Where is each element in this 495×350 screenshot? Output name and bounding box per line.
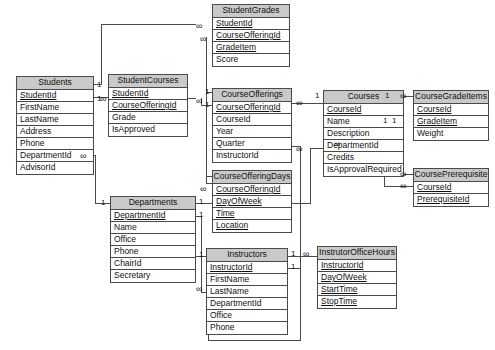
field-row[interactable]: FirstName bbox=[17, 102, 93, 114]
field-name-key: StartTime bbox=[321, 284, 358, 294]
cardinality-marker-m18: ∞ bbox=[400, 170, 406, 178]
field-name: Weight bbox=[417, 128, 443, 138]
entity-student_courses[interactable]: StudentCoursesStudentIdCourseOfferingIdG… bbox=[108, 74, 188, 137]
field-row[interactable]: DepartmentId bbox=[111, 210, 195, 222]
entity-course_grade_items[interactable]: CourseGradeItemsCourseIdGradeItemWeight bbox=[413, 90, 489, 141]
entity-departments[interactable]: DepartmentsDepartmentIdNameOfficePhoneCh… bbox=[110, 196, 196, 283]
field-name-key: DayOfWeek bbox=[216, 196, 262, 206]
field-name-key: InstructorId bbox=[321, 260, 364, 270]
field-row[interactable]: Phone bbox=[111, 246, 195, 258]
field-row[interactable]: CourseOfferingId bbox=[109, 100, 187, 112]
field-row[interactable]: Phone bbox=[207, 322, 287, 334]
field-name-key: StudentId bbox=[20, 90, 56, 100]
field-name-key: GradeItem bbox=[417, 116, 457, 126]
field-row[interactable]: ChairId bbox=[111, 258, 195, 270]
field-row[interactable]: Weight bbox=[414, 128, 488, 140]
cardinality-marker-m9: ∞ bbox=[80, 152, 86, 160]
field-row[interactable]: CourseId bbox=[414, 182, 488, 194]
field-row[interactable]: StudentId bbox=[109, 88, 187, 100]
field-row[interactable]: Secretary bbox=[111, 270, 195, 282]
cardinality-marker-m24: ∞ bbox=[196, 285, 202, 293]
field-row[interactable]: IsApprovalRequired bbox=[324, 164, 403, 176]
cardinality-marker-m7: 1 bbox=[205, 88, 209, 96]
field-name: Office bbox=[114, 234, 136, 244]
field-name: Phone bbox=[114, 246, 139, 256]
field-row[interactable]: PrerequisiteId bbox=[414, 194, 488, 206]
field-name: ChairId bbox=[114, 258, 141, 268]
field-row[interactable]: InstructorId bbox=[318, 260, 396, 272]
field-row[interactable]: StartTime bbox=[318, 284, 396, 296]
field-row[interactable]: FirstName bbox=[207, 274, 287, 286]
field-row[interactable]: CourseOfferingId bbox=[213, 30, 289, 42]
field-row[interactable]: DayOfWeek bbox=[318, 272, 396, 284]
field-row[interactable]: Score bbox=[213, 54, 289, 66]
field-row[interactable]: CourseOfferingId bbox=[213, 102, 291, 114]
field-row[interactable]: DepartmentId bbox=[207, 298, 287, 310]
field-row[interactable]: CourseId bbox=[324, 104, 403, 116]
entity-title-student_courses: StudentCourses bbox=[109, 75, 187, 88]
field-row[interactable]: GradeItem bbox=[213, 42, 289, 54]
field-name-key: CourseId bbox=[417, 104, 452, 114]
entity-instructor_office_hours[interactable]: InstrutorOfficeHoursInstructorIdDayOfWee… bbox=[317, 246, 397, 309]
field-row[interactable]: AdvisorId bbox=[17, 162, 93, 174]
entity-courses[interactable]: CoursesCourseIdNameDescriptionDepartment… bbox=[323, 90, 404, 177]
field-row[interactable]: StudentId bbox=[213, 18, 289, 30]
field-row[interactable]: StudentId bbox=[17, 90, 93, 102]
cardinality-marker-m19: ∞ bbox=[400, 182, 406, 190]
field-row[interactable]: GradeItem bbox=[414, 116, 488, 128]
entity-title-course_offering_days: CourseOfferingDays bbox=[213, 171, 291, 184]
entity-title-instructors: Instructors bbox=[207, 249, 287, 262]
field-row[interactable]: CourseId bbox=[213, 114, 291, 126]
cardinality-marker-m6: ∞ bbox=[196, 97, 202, 105]
field-row[interactable]: LastName bbox=[207, 286, 287, 298]
field-row[interactable]: InstructorId bbox=[213, 150, 291, 162]
field-row[interactable]: Quarter bbox=[213, 138, 291, 150]
entity-student_grades[interactable]: StudentGradesStudentIdCourseOfferingIdGr… bbox=[212, 4, 290, 67]
field-name: Year bbox=[216, 126, 233, 136]
field-row[interactable]: Credits bbox=[324, 152, 403, 164]
field-row[interactable]: InstructorId bbox=[207, 262, 287, 274]
field-name: DepartmentId bbox=[210, 298, 262, 308]
field-row[interactable]: Office bbox=[111, 234, 195, 246]
er-diagram-canvas: StudentsStudentIdFirstNameLastNameAddres… bbox=[0, 0, 495, 350]
field-name-key: InstructorId bbox=[210, 262, 253, 272]
field-row[interactable]: Grade bbox=[109, 112, 187, 124]
field-name-key: DepartmentId bbox=[114, 210, 166, 220]
field-name-key: CourseId bbox=[417, 182, 452, 192]
field-row[interactable]: Location bbox=[213, 220, 291, 232]
entity-course_offering_days[interactable]: CourseOfferingDaysCourseOfferingIdDayOfW… bbox=[212, 170, 292, 233]
field-row[interactable]: IsApproved bbox=[109, 124, 187, 136]
field-row[interactable]: CourseOfferingId bbox=[213, 184, 291, 196]
field-name: FirstName bbox=[210, 274, 249, 284]
field-name: Name bbox=[114, 222, 137, 232]
cardinality-marker-m21: 1 bbox=[199, 198, 203, 206]
cardinality-marker-m11: ∞ bbox=[296, 99, 302, 107]
cardinality-marker-m14: 1 bbox=[385, 92, 389, 100]
field-name: Description bbox=[327, 128, 370, 138]
entity-course_prerequisite[interactable]: CoursePrerequisiteCourseIdPrerequisiteId bbox=[413, 168, 489, 207]
field-name-key: CourseOfferingId bbox=[112, 100, 177, 110]
field-name: Quarter bbox=[216, 138, 245, 148]
field-name-key: StudentId bbox=[216, 18, 252, 28]
field-row[interactable]: Name bbox=[111, 222, 195, 234]
cardinality-marker-m8: 1 bbox=[205, 101, 209, 109]
field-row[interactable]: CourseId bbox=[414, 104, 488, 116]
field-name-key: GradeItem bbox=[216, 42, 256, 52]
field-row[interactable]: Phone bbox=[17, 138, 93, 150]
field-row[interactable]: DayOfWeek bbox=[213, 196, 291, 208]
field-row[interactable]: Time bbox=[213, 208, 291, 220]
field-name: Score bbox=[216, 54, 238, 64]
field-row[interactable]: Year bbox=[213, 126, 291, 138]
field-row[interactable]: Office bbox=[207, 310, 287, 322]
entity-title-departments: Departments bbox=[111, 197, 195, 210]
cardinality-marker-m5: ∞ bbox=[100, 95, 106, 103]
entity-instructors[interactable]: InstructorsInstructorIdFirstNameLastName… bbox=[206, 248, 288, 335]
entity-title-course_prerequisite: CoursePrerequisite bbox=[414, 169, 488, 182]
field-name-key: CourseOfferingId bbox=[216, 184, 281, 194]
field-row[interactable]: LastName bbox=[17, 114, 93, 126]
field-row[interactable]: Address bbox=[17, 126, 93, 138]
field-row[interactable]: StopTime bbox=[318, 296, 396, 308]
cardinality-marker-m12: 1 bbox=[315, 92, 319, 100]
entity-course_offerings[interactable]: CourseOfferingsCourseOfferingIdCourseIdY… bbox=[212, 88, 292, 163]
entity-title-course_offerings: CourseOfferings bbox=[213, 89, 291, 102]
